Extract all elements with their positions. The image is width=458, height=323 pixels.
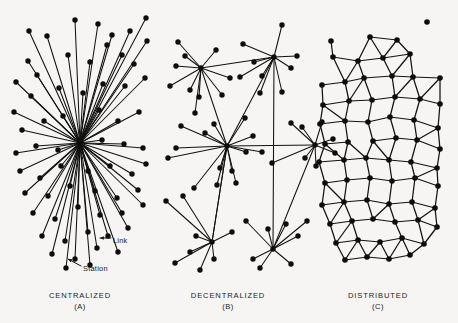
station-node — [163, 198, 168, 203]
station-node — [243, 149, 248, 154]
station-node — [288, 65, 293, 70]
station-node — [219, 92, 224, 97]
station-node — [60, 113, 65, 118]
station-node — [198, 65, 203, 70]
station-node — [243, 218, 248, 223]
station-node — [355, 58, 361, 64]
station-node — [33, 143, 38, 148]
station-node — [415, 217, 421, 223]
station-node — [104, 42, 109, 47]
station-node — [213, 47, 218, 52]
station-node — [437, 146, 443, 152]
station-node — [67, 183, 72, 188]
station-node — [361, 75, 367, 81]
station-node — [399, 235, 405, 241]
station-node — [62, 238, 67, 243]
station-node — [288, 120, 293, 125]
station-node — [295, 233, 300, 238]
station-node — [407, 252, 413, 258]
station-node — [363, 155, 369, 161]
station-node — [214, 182, 219, 187]
station-node — [41, 118, 46, 123]
station-node — [407, 51, 413, 57]
station-node — [369, 97, 375, 103]
station-node — [302, 155, 307, 160]
station-node — [409, 199, 415, 205]
station-node — [119, 210, 124, 215]
station-node — [143, 161, 148, 166]
station-node — [342, 79, 348, 85]
station-node — [271, 54, 276, 59]
station-node — [434, 224, 440, 230]
station-node — [322, 141, 328, 147]
station-node — [330, 136, 335, 141]
station-node — [355, 237, 361, 243]
station-node — [97, 212, 102, 217]
station-node — [250, 133, 255, 138]
caption-centralized: CENTRALIZED (A) — [49, 291, 111, 312]
station-node — [121, 141, 126, 146]
station-node — [55, 147, 60, 152]
station-node — [319, 202, 325, 208]
station-node — [330, 54, 336, 60]
station-node — [279, 89, 284, 94]
station-node — [341, 199, 347, 205]
station-node — [182, 53, 187, 58]
caption-distributed-title: DISTRIBUTED — [348, 291, 408, 302]
station-node — [202, 130, 207, 135]
station-node — [237, 74, 242, 79]
station-node — [392, 94, 398, 100]
station-node — [344, 177, 350, 183]
station-node — [115, 249, 120, 254]
station-node — [165, 155, 170, 160]
station-node — [269, 160, 274, 165]
station-node — [17, 168, 22, 173]
station-node — [411, 117, 417, 123]
station-node — [342, 257, 348, 263]
caption-decentralized-title: DECENTRALIZED — [191, 291, 265, 302]
station-node — [346, 98, 352, 104]
station-node — [52, 216, 57, 221]
station-node — [316, 159, 322, 165]
station-node — [65, 52, 70, 57]
station-node — [142, 75, 147, 80]
station-node — [386, 157, 392, 163]
station-node — [125, 225, 130, 230]
station-node — [327, 221, 333, 227]
station-node — [80, 90, 85, 95]
station-node — [85, 229, 90, 234]
station-node — [96, 107, 101, 112]
station-node — [434, 165, 440, 171]
station-node — [435, 183, 441, 189]
station-node — [129, 171, 134, 176]
station-node — [11, 109, 16, 114]
annotation-label-station: Station — [83, 264, 108, 273]
station-node — [13, 150, 18, 155]
station-node — [367, 175, 373, 181]
station-node — [144, 38, 149, 43]
station-node — [167, 83, 172, 88]
station-node — [270, 246, 275, 251]
station-node — [304, 218, 309, 223]
station-node — [370, 138, 376, 144]
station-node — [217, 165, 222, 170]
caption-centralized-title: CENTRALIZED — [49, 291, 111, 302]
station-node — [143, 15, 148, 20]
station-node — [410, 74, 416, 80]
station-node — [265, 226, 270, 231]
station-node — [85, 168, 90, 173]
station-node — [257, 90, 262, 95]
station-node — [87, 59, 92, 64]
station-node — [299, 124, 304, 129]
station-node — [242, 115, 247, 120]
station-node — [28, 93, 33, 98]
caption-decentralized: DECENTRALIZED (B) — [191, 291, 265, 312]
station-node — [211, 121, 216, 126]
station-node — [175, 39, 180, 44]
station-node — [131, 61, 136, 66]
station-node — [283, 221, 288, 226]
annotation-label-link: Link — [113, 236, 128, 245]
station-node — [196, 94, 201, 99]
caption-distributed: DISTRIBUTED (C) — [348, 291, 408, 312]
station-node — [39, 233, 44, 238]
